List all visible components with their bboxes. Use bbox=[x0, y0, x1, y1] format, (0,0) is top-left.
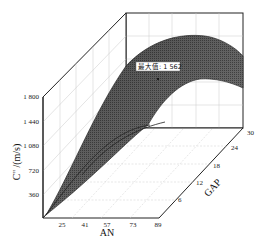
surface-chart: 最大值: 1 562 1 800 1 440 1 080 720 360 C''… bbox=[0, 0, 263, 245]
svg-text:12: 12 bbox=[196, 179, 204, 187]
y-axis-label: GAP bbox=[202, 176, 224, 198]
svg-text:18: 18 bbox=[213, 162, 221, 170]
svg-text:24: 24 bbox=[231, 144, 239, 152]
svg-text:1 800: 1 800 bbox=[23, 93, 39, 101]
x-axis: 25 41 57 73 89 AN bbox=[59, 221, 163, 238]
x-axis-label: AN bbox=[100, 227, 114, 238]
svg-text:360: 360 bbox=[29, 191, 40, 199]
svg-text:41: 41 bbox=[82, 221, 90, 229]
svg-text:73: 73 bbox=[130, 221, 138, 229]
svg-text:1 440: 1 440 bbox=[23, 118, 39, 126]
svg-text:25: 25 bbox=[59, 221, 67, 229]
z-axis-label: C'' /(m/s) bbox=[11, 144, 23, 181]
svg-text:89: 89 bbox=[155, 221, 163, 229]
svg-text:1 080: 1 080 bbox=[23, 142, 39, 150]
svg-text:最大值: 1 562: 最大值: 1 562 bbox=[138, 62, 182, 71]
svg-text:30: 30 bbox=[247, 129, 255, 137]
svg-text:6: 6 bbox=[178, 196, 182, 204]
z-axis: 1 800 1 440 1 080 720 360 C'' /(m/s) bbox=[11, 93, 43, 218]
svg-text:720: 720 bbox=[29, 167, 40, 175]
